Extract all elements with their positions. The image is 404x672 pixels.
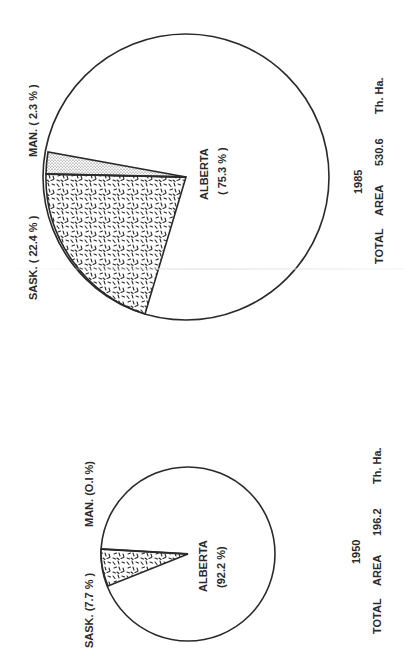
pie-1950-label-alberta: ALBERTA [197,540,209,592]
svg-text:196.2: 196.2 [371,508,383,536]
pie-1950-year: 1950 [350,540,362,564]
pie-charts-figure: SASK. ( 22.4 % ) MAN. ( 2.3 % ) ALBERTA … [0,0,404,672]
pie-1950-label-sask: SASK. (7.7 % ) [83,572,95,648]
svg-text:(92.2 %): (92.2 %) [215,546,227,588]
svg-text:SASK. (7.7 % ): SASK. (7.7 % ) [83,572,95,648]
svg-text:Th. Ha.: Th. Ha. [373,77,385,114]
pie-1985-label-sask: SASK. ( 22.4 % ) [27,215,39,300]
pie-1985-label-alberta: ALBERTA [198,148,210,200]
svg-text:TOTAL: TOTAL [373,228,385,264]
pie-1950-label-alberta-pct: (92.2 %) [215,546,227,588]
pie-1950 [101,467,275,641]
svg-text:AREA: AREA [371,555,383,586]
svg-text:530.6: 530.6 [373,138,385,166]
scan-artifact-line [0,268,404,270]
svg-text:MAN. ( 2.3 % ): MAN. ( 2.3 % ) [27,84,39,157]
pie-1950-total-caption: TOTAL AREA 196.2 Th. Ha. [371,447,383,634]
svg-text:1985: 1985 [352,170,364,194]
svg-text:TOTAL: TOTAL [371,598,383,634]
pie-1985-year: 1985 [352,170,364,194]
svg-text:MAN. (O.I %): MAN. (O.I %) [83,461,95,527]
pie-1985-label-man: MAN. ( 2.3 % ) [27,84,39,157]
svg-text:ALBERTA: ALBERTA [198,148,210,200]
pie-1985-total-caption: TOTAL AREA 530.6 Th. Ha. [373,77,385,264]
svg-text:AREA: AREA [373,185,385,216]
pie-1950-label-man: MAN. (O.I %) [83,461,95,527]
svg-text:ALBERTA: ALBERTA [197,540,209,592]
svg-text:1950: 1950 [350,540,362,564]
chart-page: SASK. ( 22.4 % ) MAN. ( 2.3 % ) ALBERTA … [0,0,404,672]
svg-text:( 75.3 % ): ( 75.3 % ) [216,147,228,195]
svg-text:SASK. ( 22.4 % ): SASK. ( 22.4 % ) [27,215,39,300]
pie-1985-label-alberta-pct: ( 75.3 % ) [216,147,228,195]
pie-1985 [43,34,329,320]
svg-text:Th. Ha.: Th. Ha. [371,447,383,484]
